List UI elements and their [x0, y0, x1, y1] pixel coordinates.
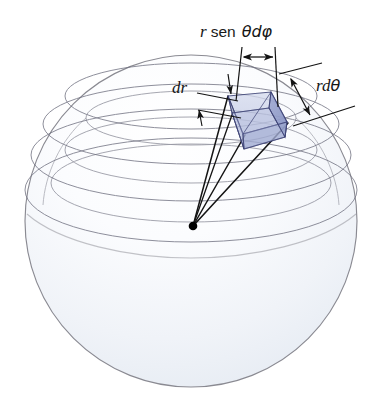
label-arc-phi: rsenθdφ	[200, 22, 273, 41]
center-point-group	[189, 222, 198, 231]
label-arc-phi-r: r	[200, 22, 207, 41]
label-rdtheta-rd: rd	[316, 76, 331, 95]
sphere-body	[25, 55, 357, 387]
sphere-center-dot	[189, 222, 198, 231]
label-arc-phi-sen: sen	[211, 23, 236, 40]
label-rdtheta-theta: θ	[331, 76, 341, 95]
spherical-volume-element-diagram: rsenθdφ dr rdθ	[0, 0, 376, 411]
label-arc-phi-theta-dphi: θdφ	[242, 22, 273, 41]
leader-line-rdtheta-upper	[279, 63, 322, 74]
label-dr: dr	[172, 78, 188, 97]
figure-root: rsenθdφ dr rdθ	[0, 0, 376, 411]
sphere-group	[25, 55, 357, 387]
label-r-d-theta: rdθ	[316, 76, 341, 95]
